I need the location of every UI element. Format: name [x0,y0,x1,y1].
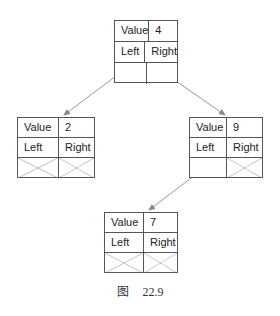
left-label: Left [18,138,59,157]
right-label: Right [227,138,262,157]
right-label: Right [145,42,177,62]
right-label: Right [144,233,177,252]
left-label: Left [105,233,144,252]
left-label: Left [190,138,227,157]
caption-number: 22.9 [143,285,164,299]
tree-node-9: Value 9 Left Right [189,117,263,178]
left-label: Left [115,42,145,62]
right-pointer [147,63,178,84]
left-pointer [190,158,227,178]
node-value: 4 [149,21,177,41]
node-value: 9 [227,118,262,137]
caption-prefix: 图 [117,285,129,299]
right-label: Right [59,138,94,157]
null-pointer-icon [59,158,94,178]
tree-node-7: Value 7 Left Right [104,212,178,273]
null-pointer-icon [144,253,177,273]
left-pointer [115,63,147,84]
null-pointer-icon [18,158,59,178]
null-pointer-icon [227,158,262,178]
null-pointer-icon [105,253,144,273]
figure-caption: 图22.9 [0,282,280,300]
value-label: Value [18,118,59,137]
tree-node-4: Value 4 Left Right [114,20,178,83]
value-label: Value [105,213,144,232]
value-label: Value [190,118,227,137]
node-value: 2 [59,118,94,137]
tree-node-2: Value 2 Left Right [17,117,95,178]
node-value: 7 [144,213,177,232]
value-label: Value [115,21,149,41]
